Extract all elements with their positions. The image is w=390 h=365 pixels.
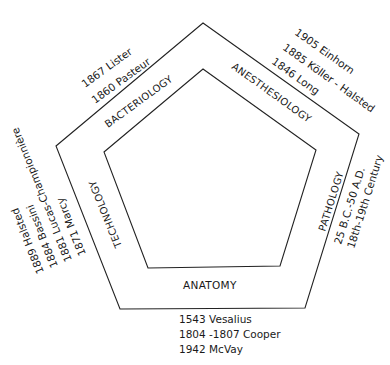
side-anesthesiology: ANESTHESIOLOGY 1905 Einhorn 1885 Köller … [230, 26, 377, 125]
category-anatomy: ANATOMY [183, 279, 237, 291]
pentagon-diagram: BACTERIOLOGY 1867 Lister 1860 Pasteur AN… [0, 0, 390, 365]
side-technology: TECHNOLOGY 1889 Halsted 1884 Bassini 188… [8, 126, 124, 276]
history-mcvay: 1942 McVay [179, 343, 243, 355]
side-anatomy: ANATOMY 1543 Vesalius 1804 -1807 Cooper … [179, 279, 281, 355]
side-pathology: PATHOLOGY 25 B.C.-50 A.D. 18th-19th Cent… [316, 153, 385, 249]
history-cooper: 1804 -1807 Cooper [179, 328, 281, 340]
history-vesalius: 1543 Vesalius [179, 313, 252, 325]
